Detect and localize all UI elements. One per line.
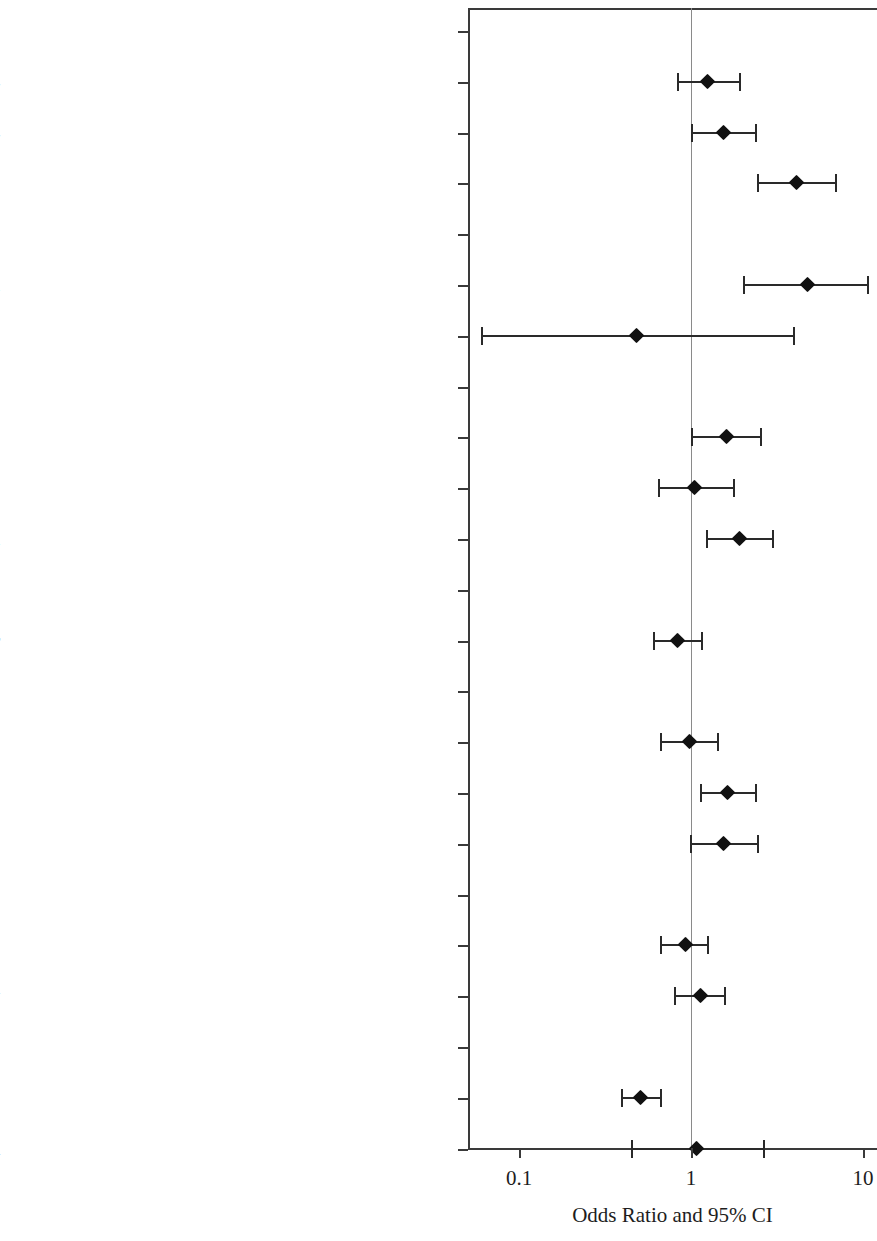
y-axis-tick	[458, 31, 468, 33]
confidence-interval-lower-cap	[621, 1089, 623, 1107]
y-axis-tick	[458, 895, 468, 897]
y-axis-tick	[458, 133, 468, 135]
confidence-interval-lower-cap	[706, 530, 708, 548]
confidence-interval-upper-cap	[724, 987, 726, 1005]
x-axis-tick-label: 1	[686, 1166, 697, 1191]
y-axis-tick	[458, 641, 468, 643]
y-axis-tick	[458, 793, 468, 795]
y-axis-tick	[458, 488, 468, 490]
confidence-interval-upper-cap	[763, 1140, 765, 1158]
confidence-interval-lower-cap	[757, 174, 759, 192]
confidence-interval-lower-cap	[658, 479, 660, 497]
confidence-interval-upper-cap	[867, 276, 869, 294]
confidence-interval-upper-cap	[739, 73, 741, 91]
confidence-interval-upper-cap	[793, 327, 795, 345]
odds-ratio-point-marker	[732, 531, 748, 547]
y-axis-tick	[458, 844, 468, 846]
y-axis-tick	[458, 539, 468, 541]
confidence-interval-upper-cap	[733, 479, 735, 497]
confidence-interval-lower-cap	[660, 733, 662, 751]
x-axis-title: Odds Ratio and 95% CI	[468, 1203, 877, 1228]
odds-ratio-point-marker	[687, 480, 703, 496]
odds-ratio-point-marker	[700, 74, 716, 90]
confidence-interval-lower-cap	[691, 124, 693, 142]
x-axis-tick	[863, 1148, 865, 1158]
confidence-interval-lower-cap	[700, 784, 702, 802]
y-axis-tick	[458, 590, 468, 592]
odds-ratio-point-marker	[628, 328, 644, 344]
confidence-interval-upper-cap	[755, 124, 757, 142]
odds-ratio-point-marker	[789, 175, 805, 191]
confidence-interval-lower-cap	[660, 936, 662, 954]
confidence-interval-upper-cap	[707, 936, 709, 954]
confidence-interval-lower-cap	[674, 987, 676, 1005]
confidence-interval-lower-cap	[631, 1140, 633, 1158]
y-axis-tick	[458, 82, 468, 84]
odds-ratio-point-marker	[800, 277, 816, 293]
x-axis-tick-label: 10	[853, 1166, 874, 1191]
confidence-interval-upper-cap	[760, 428, 762, 446]
plot-frame-left-axis	[468, 8, 470, 1148]
odds-ratio-point-marker	[692, 988, 708, 1004]
confidence-interval-lower-cap	[481, 327, 483, 345]
odds-ratio-point-marker	[720, 785, 736, 801]
y-axis-tick	[458, 183, 468, 185]
y-axis-tick	[458, 1098, 468, 1100]
y-axis-tick	[458, 336, 468, 338]
y-axis-tick	[458, 742, 468, 744]
confidence-interval-upper-cap	[717, 733, 719, 751]
confidence-interval-lower-cap	[691, 428, 693, 446]
confidence-interval-upper-cap	[701, 632, 703, 650]
y-axis-tick	[458, 996, 468, 998]
confidence-interval-upper-cap	[660, 1089, 662, 1107]
confidence-interval-upper-cap	[772, 530, 774, 548]
confidence-interval-lower-cap	[677, 73, 679, 91]
odds-ratio-point-marker	[670, 632, 686, 648]
odds-ratio-point-marker	[715, 836, 731, 852]
confidence-interval-lower-cap	[653, 632, 655, 650]
y-axis-tick	[458, 1149, 468, 1151]
confidence-interval-upper-cap	[757, 835, 759, 853]
y-axis-tick	[458, 1047, 468, 1049]
odds-ratio-point-marker	[715, 124, 731, 140]
x-axis-tick	[691, 1148, 693, 1158]
x-axis-tick-label: 0.1	[506, 1166, 532, 1191]
confidence-interval-upper-cap	[755, 784, 757, 802]
y-axis-tick	[458, 387, 468, 389]
confidence-interval-lower-cap	[690, 835, 692, 853]
y-axis-tick	[458, 691, 468, 693]
x-axis-tick	[519, 1148, 521, 1158]
y-axis-tick	[458, 234, 468, 236]
y-axis-tick	[458, 437, 468, 439]
null-effect-reference-line	[691, 8, 692, 1148]
plot-frame-top-border	[468, 8, 877, 10]
odds-ratio-point-marker	[718, 429, 734, 445]
y-axis-tick	[458, 945, 468, 947]
odds-ratio-point-marker	[633, 1090, 649, 1106]
forest-plot: Age Group: 40-54 (Reference)55-6465-7475…	[0, 0, 877, 1241]
y-axis-tick	[458, 285, 468, 287]
confidence-interval-lower-cap	[743, 276, 745, 294]
confidence-interval-upper-cap	[835, 174, 837, 192]
odds-ratio-point-marker	[682, 734, 698, 750]
